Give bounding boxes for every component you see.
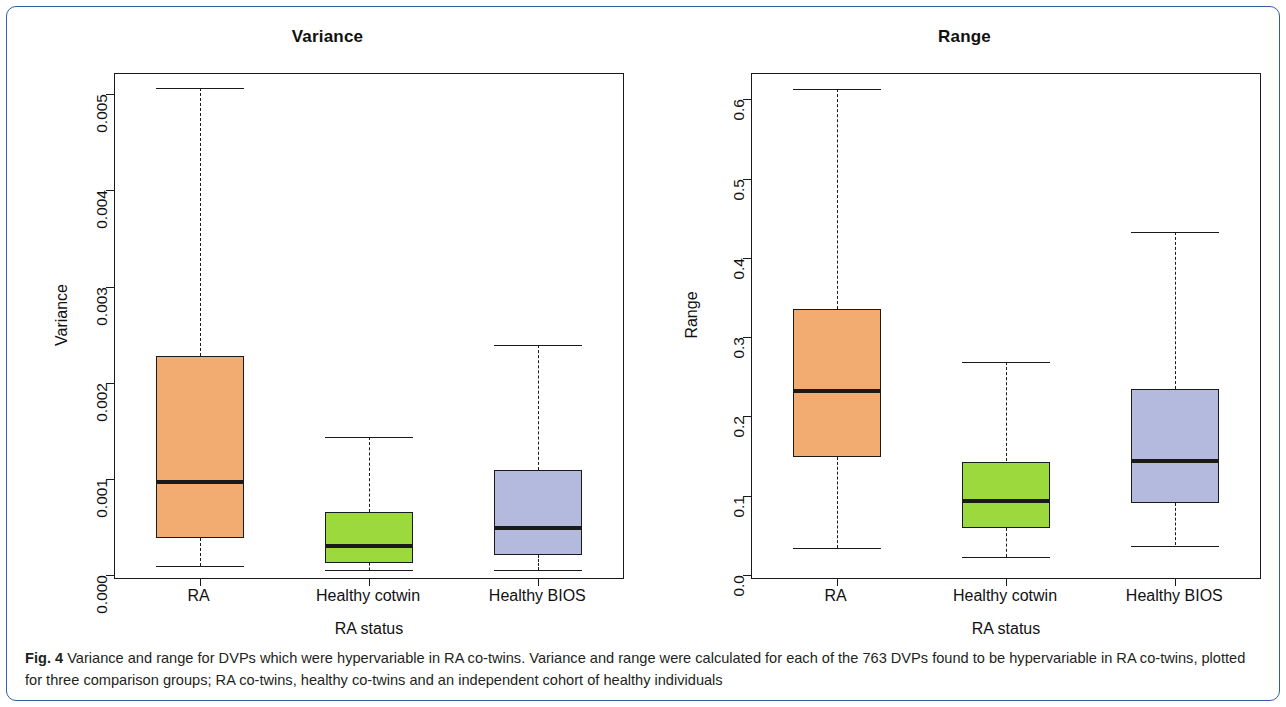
x-axis-tick-label: RA: [188, 587, 210, 605]
x-axis-tick-label: Healthy BIOS: [489, 587, 586, 605]
box-healthy-cotwin: [325, 512, 413, 563]
whisker-upper: [837, 89, 838, 309]
y-axis-title-range: Range: [683, 291, 701, 338]
median-line: [962, 499, 1050, 503]
x-axis-title-range: RA status: [751, 620, 1261, 638]
median-line: [325, 544, 413, 548]
whisker-cap-upper: [793, 89, 881, 90]
x-axis-tick-label: RA: [825, 587, 847, 605]
whisker-upper: [1006, 362, 1007, 461]
median-line: [1131, 459, 1219, 463]
figure-caption-text: Variance and range for DVPs which were h…: [25, 650, 1245, 688]
whisker-upper: [200, 88, 201, 355]
whisker-lower: [538, 555, 539, 570]
figure-caption-label: Fig. 4: [25, 650, 63, 666]
whisker-cap-lower: [962, 557, 1050, 558]
box-ra: [793, 309, 881, 457]
x-axis-tick: [369, 578, 370, 586]
panel-title-variance: Variance: [9, 27, 646, 47]
x-axis-tick: [1175, 578, 1176, 586]
median-line: [494, 526, 582, 530]
median-line: [156, 480, 244, 484]
whisker-lower: [369, 563, 370, 571]
whisker-upper: [538, 345, 539, 470]
whisker-cap-lower: [793, 548, 881, 549]
whisker-lower: [837, 457, 838, 548]
whisker-cap-upper: [325, 437, 413, 438]
whisker-lower: [1175, 503, 1176, 546]
plot-area-variance: 0.0000.0010.0020.0030.0040.005: [114, 73, 624, 579]
x-axis-tick: [837, 578, 838, 586]
x-axis-tick: [200, 578, 201, 586]
y-axis-title-variance: Variance: [53, 284, 71, 346]
whisker-upper: [369, 437, 370, 512]
x-axis-tick-label: Healthy cotwin: [953, 587, 1057, 605]
x-axis-title-variance: RA status: [114, 620, 624, 638]
panel-title-range: Range: [646, 27, 1283, 47]
whisker-cap-upper: [1131, 232, 1219, 233]
whisker-lower: [1006, 528, 1007, 557]
box-healthy-bios: [1131, 389, 1219, 502]
whisker-cap-lower: [156, 566, 244, 567]
chart-panel-variance: Variance Variance 0.0000.0010.0020.0030.…: [9, 15, 646, 615]
chart-panel-range: Range Range 0.00.10.20.30.40.50.6 RA sta…: [646, 15, 1283, 615]
whisker-lower: [200, 538, 201, 567]
x-axis-tick-label: Healthy cotwin: [316, 587, 420, 605]
box-healthy-bios: [494, 470, 582, 555]
plot-area-range: 0.00.10.20.30.40.50.6: [751, 73, 1261, 579]
whisker-upper: [1175, 232, 1176, 389]
figure-card: Variance Variance 0.0000.0010.0020.0030.…: [6, 6, 1280, 701]
box-healthy-cotwin: [962, 462, 1050, 529]
whisker-cap-lower: [494, 570, 582, 571]
x-axis-tick: [1006, 578, 1007, 586]
box-ra: [156, 356, 244, 538]
median-line: [793, 389, 881, 393]
whisker-cap-upper: [494, 345, 582, 346]
whisker-cap-lower: [325, 570, 413, 571]
figure-caption: Fig. 4 Variance and range for DVPs which…: [25, 647, 1263, 691]
whisker-cap-upper: [962, 362, 1050, 363]
x-axis-tick-label: Healthy BIOS: [1126, 587, 1223, 605]
x-axis-tick: [538, 578, 539, 586]
whisker-cap-upper: [156, 88, 244, 89]
whisker-cap-lower: [1131, 546, 1219, 547]
